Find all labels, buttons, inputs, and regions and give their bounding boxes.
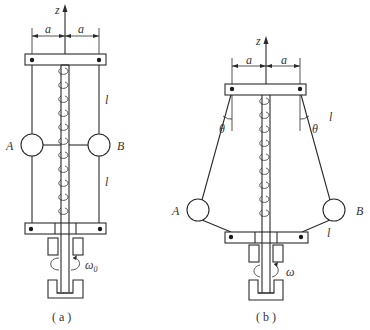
ball-b [323,199,345,221]
dim-label-right: a [281,53,287,67]
z-axis-a: z [54,3,68,54]
figure-a: z a a [5,3,125,324]
pin-icon [30,58,34,62]
spring-b [260,98,269,216]
bearing-b [249,245,283,262]
top-bar-b [225,84,306,95]
lower-bar-b [225,232,308,243]
pin-icon [230,87,234,91]
rod-upper-right [300,91,330,200]
angle-label-right: θ [312,122,318,136]
pin-icon [229,235,233,239]
ball-label-a: A [171,204,180,218]
diagram-canvas: z a a [0,0,370,330]
dim-label-left: a [246,53,252,67]
pin-icon [29,227,33,231]
ball-label-a: A [5,139,14,153]
caption-b: ( b ) [256,310,276,324]
arrow-up-icon [264,36,269,44]
rotation-arrow-icon [254,262,278,277]
spring-a [59,68,68,214]
rotation-arrow-icon [51,255,80,270]
z-axis-b: z [255,34,269,84]
top-bar-a [25,54,106,65]
pin-icon [97,58,101,62]
dim-label-left: a [45,22,51,36]
bearing-a [48,238,83,255]
ball-label-b: B [356,204,364,218]
arrow-up-icon [63,4,68,12]
length-label-lower: l [105,175,109,189]
ball-a [21,134,43,156]
length-label-upper: l [105,93,109,107]
omega-label-a: ω0 [85,258,97,274]
rod-lower-right [302,220,330,232]
figure-b: z a a θ θ [171,34,364,324]
dim-label-right: a [78,22,84,36]
caption-a: ( a ) [52,310,71,324]
socket-a [48,280,83,298]
length-label-upper: l [329,110,333,124]
ball-b [88,134,110,156]
omega-label-b: ω [286,265,294,279]
ball-label-b: B [117,139,125,153]
z-axis-label: z [255,34,261,48]
pin-icon [298,87,302,91]
pin-icon [299,235,303,239]
pin-icon [98,227,102,231]
rod-lower-left [202,220,231,232]
length-label-lower: l [327,226,331,240]
rod-upper-left [202,91,232,200]
socket-b [249,280,283,300]
lower-bar-a [25,223,106,234]
shaft-b [262,95,270,293]
z-axis-label: z [54,3,60,17]
ball-a [187,199,209,221]
